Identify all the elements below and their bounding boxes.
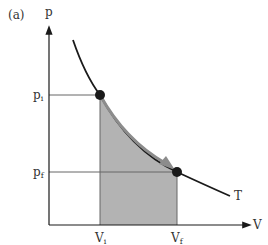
isotherm-label: T: [234, 190, 242, 202]
pi-label-sub: i: [41, 94, 44, 103]
initial-state-point: [95, 90, 105, 100]
pi-label: pi: [33, 89, 43, 103]
vf-label: Vf: [171, 232, 183, 245]
vi-label-sub: i: [104, 237, 107, 245]
v-axis-label: V: [253, 219, 262, 231]
pf-label-base: p: [33, 165, 41, 179]
vi-label: Vi: [95, 232, 106, 245]
vf-label-sub: f: [180, 237, 183, 245]
pv-diagram: (a) p V pi pf Vi Vf T: [0, 0, 268, 245]
pf-label: pf: [33, 166, 44, 180]
pi-label-base: p: [33, 88, 41, 102]
pv-diagram-svg: [0, 0, 268, 245]
panel-label: (a): [8, 9, 25, 21]
vf-label-base: V: [171, 231, 180, 245]
pf-label-sub: f: [41, 171, 44, 180]
p-axis-label: p: [45, 6, 53, 18]
vi-label-base: V: [95, 231, 104, 245]
final-state-point: [172, 167, 182, 177]
